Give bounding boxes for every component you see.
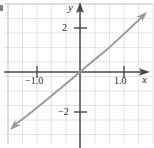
x-axis-label: x: [142, 74, 147, 85]
graph-canvas: [0, 0, 154, 148]
y-axis-label: y: [68, 2, 73, 13]
tick-label-x-1: 1.0: [114, 76, 127, 86]
graph-figure: y x 2 −2 −1.0 1.0: [0, 0, 154, 148]
tick-label-y-neg2: −2: [58, 107, 69, 117]
edge-artifact-mark: [0, 5, 3, 11]
tick-label-y-2: 2: [62, 23, 67, 33]
tick-label-x-neg1: −1.0: [25, 76, 43, 86]
